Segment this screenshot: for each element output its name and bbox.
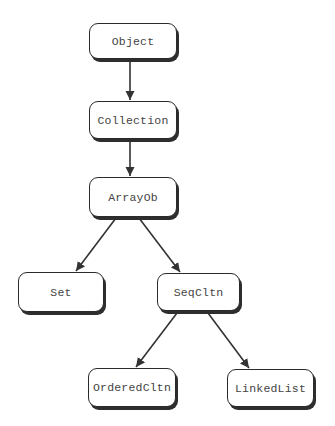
- node-label-collection: Collection: [97, 114, 168, 127]
- node-label-arrayob: ArrayOb: [108, 191, 158, 204]
- node-label-seqcltn: SeqCltn: [174, 286, 224, 299]
- node-label-object: Object: [112, 35, 155, 48]
- node-orderedcltn: OrderedCltn: [88, 368, 176, 407]
- node-label-linkedlist: LinkedList: [235, 382, 306, 395]
- node-set: Set: [18, 272, 104, 312]
- node-linkedlist: LinkedList: [227, 369, 314, 407]
- node-arrayob: ArrayOb: [89, 177, 177, 217]
- node-collection: Collection: [89, 101, 177, 139]
- edge-arrayob-to-seqcltn: [139, 218, 180, 272]
- class-hierarchy-diagram: Object Collection ArrayOb Set SeqCltn Or…: [0, 0, 335, 426]
- edge-seqcltn-to-linkedlist: [208, 313, 249, 368]
- node-label-set: Set: [50, 286, 71, 299]
- node-seqcltn: SeqCltn: [157, 273, 240, 311]
- edge-seqcltn-to-orderedcltn: [136, 313, 177, 367]
- node-object: Object: [89, 23, 177, 59]
- node-label-orderedcltn: OrderedCltn: [93, 381, 171, 394]
- edge-arrayob-to-set: [76, 218, 116, 271]
